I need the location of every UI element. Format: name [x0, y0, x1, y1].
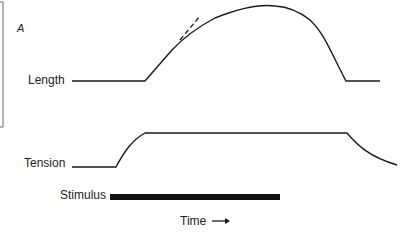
tension-trace: [72, 133, 397, 167]
length-label: Length: [28, 73, 65, 87]
diagram: A Length Tension Stimulus Time: [0, 0, 420, 238]
stimulus-bar: [110, 194, 280, 200]
stimulus-label: Stimulus: [60, 188, 106, 202]
left-bracket: [0, 2, 3, 127]
length-trace: [72, 6, 380, 82]
tension-label: Tension: [24, 156, 65, 170]
diagram-canvas: [0, 0, 420, 238]
panel-label: A: [17, 22, 24, 34]
time-label: Time: [180, 214, 206, 228]
